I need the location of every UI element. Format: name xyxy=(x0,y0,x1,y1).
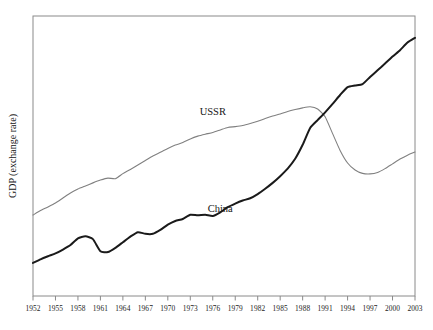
x-tick-label: 1961 xyxy=(93,304,108,313)
x-tick-label: 1982 xyxy=(250,304,265,313)
x-tick-label: 1964 xyxy=(115,304,130,313)
chart-background xyxy=(0,0,433,330)
x-tick-label: 1973 xyxy=(183,304,198,313)
x-tick-label: 1979 xyxy=(228,304,243,313)
series-label-ussr: USSR xyxy=(200,106,226,117)
x-tick-label: 1997 xyxy=(362,304,377,313)
x-tick-label: 1988 xyxy=(295,304,310,313)
x-tick-label: 1991 xyxy=(318,304,333,313)
x-tick-label: 1952 xyxy=(25,304,40,313)
y-axis-title: GDP (exchange rate) xyxy=(7,114,19,198)
x-tick-label: 2000 xyxy=(385,304,400,313)
x-tick-label: 1976 xyxy=(205,304,220,313)
chart-canvas: 1952195519581961196419671970197319761979… xyxy=(0,0,433,330)
gdp-line-chart-figure: 1952195519581961196419671970197319761979… xyxy=(0,0,433,330)
series-label-china: China xyxy=(208,203,233,214)
x-tick-label: 1985 xyxy=(273,304,288,313)
x-tick-label: 2003 xyxy=(407,304,422,313)
x-tick-label: 1958 xyxy=(70,304,85,313)
x-tick-label: 1967 xyxy=(138,304,153,313)
x-tick-label: 1994 xyxy=(340,304,355,313)
x-tick-label: 1970 xyxy=(160,304,175,313)
x-tick-label: 1955 xyxy=(48,304,63,313)
